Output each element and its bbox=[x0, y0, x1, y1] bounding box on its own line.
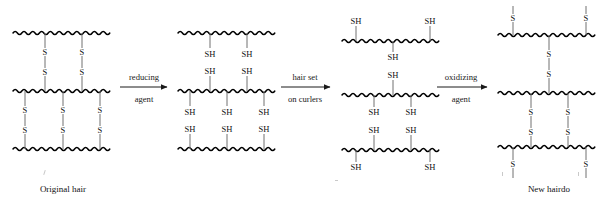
atom-label-s: S bbox=[23, 126, 28, 135]
atom-label-s: S bbox=[584, 14, 589, 23]
atom-label-s: S bbox=[547, 50, 552, 59]
atom-label-sh: SH bbox=[368, 126, 379, 135]
atom-label-s: S bbox=[23, 106, 28, 115]
structure-3-bonds bbox=[356, 26, 430, 162]
caption-original-hair: Original hair bbox=[40, 184, 86, 194]
arrow-1-label-line2: agent bbox=[135, 94, 154, 104]
atom-label-sh: SH bbox=[387, 71, 398, 80]
atom-label-s: S bbox=[43, 68, 48, 77]
arrow-2-label-line1: hair set bbox=[292, 72, 317, 82]
atom-label-sh: SH bbox=[424, 163, 435, 172]
scan-speck bbox=[502, 172, 503, 176]
atom-label-sh: SH bbox=[184, 108, 195, 117]
atom-label-s: S bbox=[511, 160, 516, 169]
structure-4-bonds bbox=[513, 6, 586, 178]
atom-label-s: S bbox=[566, 128, 571, 137]
atom-label-s: S bbox=[547, 70, 552, 79]
caption-new-hairdo: New hairdo bbox=[528, 184, 570, 194]
arrow-3-label-line2: agent bbox=[452, 94, 471, 104]
atom-label-s: S bbox=[529, 108, 534, 117]
atom-label-s: S bbox=[529, 128, 534, 137]
arrow-3-label-line1: oxidizing bbox=[445, 72, 477, 82]
atom-label-sh: SH bbox=[258, 125, 269, 134]
atom-label-sh: SH bbox=[405, 108, 416, 117]
atom-label-sh: SH bbox=[204, 50, 215, 59]
scan-speck bbox=[335, 180, 338, 181]
atom-label-sh: SH bbox=[405, 126, 416, 135]
atom-label-s: S bbox=[80, 48, 85, 57]
atom-label-sh: SH bbox=[241, 67, 252, 76]
atom-label-sh: SH bbox=[221, 125, 232, 134]
atom-label-sh: SH bbox=[241, 50, 252, 59]
atom-label-s: S bbox=[98, 106, 103, 115]
atom-label-sh: SH bbox=[184, 125, 195, 134]
atom-label-sh: SH bbox=[368, 108, 379, 117]
atom-label-sh: SH bbox=[350, 163, 361, 172]
atom-label-s: S bbox=[98, 126, 103, 135]
scan-speck bbox=[578, 172, 579, 176]
atom-label-sh: SH bbox=[258, 108, 269, 117]
atom-label-s: S bbox=[61, 106, 66, 115]
atom-label-sh: SH bbox=[424, 17, 435, 26]
atom-label-s: S bbox=[43, 48, 48, 57]
arrow-2-label-line2: on curlers bbox=[288, 94, 322, 104]
atom-label-s: S bbox=[80, 68, 85, 77]
atom-label-sh: SH bbox=[204, 67, 215, 76]
atom-label-s: S bbox=[584, 160, 589, 169]
atom-label-sh: SH bbox=[350, 17, 361, 26]
hair-chemistry-diagram: S S S S S S S S S S SH SH SH SH SH SH SH… bbox=[0, 0, 600, 205]
atom-label-s: S bbox=[566, 108, 571, 117]
arrow-1-label-line1: reducing bbox=[129, 72, 159, 82]
atom-label-s: S bbox=[61, 126, 66, 135]
atom-label-sh: SH bbox=[387, 53, 398, 62]
atom-label-sh: SH bbox=[221, 108, 232, 117]
atom-label-s: S bbox=[511, 14, 516, 23]
